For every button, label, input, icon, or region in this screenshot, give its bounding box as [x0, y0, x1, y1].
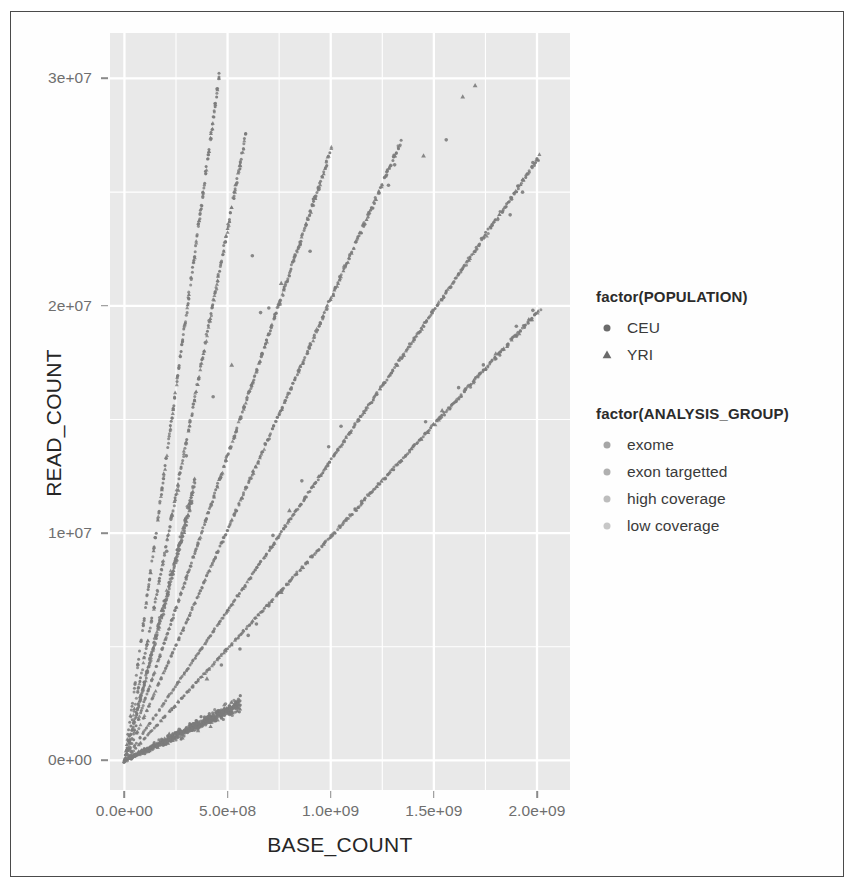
x-tick-label-2: 1.0e+09	[302, 802, 359, 820]
x-tick-mark-0	[124, 791, 126, 798]
legend-title: factor(POPULATION)	[596, 288, 748, 305]
x-tick-label-1: 5.0e+08	[199, 802, 256, 820]
y-tick-label-0: 0e+00	[18, 751, 92, 769]
legend-population: factor(POPULATION)CEUYRI	[596, 288, 748, 368]
legend-item-label: YRI	[627, 346, 653, 364]
plot-panel	[110, 33, 570, 790]
legend-title: factor(ANALYSIS_GROUP)	[596, 405, 789, 422]
x-tick-label-3: 1.5e+09	[405, 802, 462, 820]
legend-item-exome[interactable]: exome	[596, 431, 789, 458]
legend-item-ceu[interactable]: CEU	[596, 314, 748, 341]
legend-item-label: CEU	[627, 319, 660, 337]
x-tick-mark-3	[433, 791, 435, 798]
legend-item-label: exome	[627, 436, 674, 454]
legend-item-low-coverage[interactable]: low coverage	[596, 512, 789, 539]
x-axis-title: BASE_COUNT	[110, 833, 570, 857]
x-tick-mark-1	[227, 791, 229, 798]
y-axis-title: READ_COUNT	[42, 223, 66, 623]
x-tick-label-4: 2.0e+09	[508, 802, 565, 820]
x-tick-mark-2	[330, 791, 332, 798]
circle-marker-icon	[596, 461, 618, 483]
x-tick-mark-4	[536, 791, 538, 798]
legend-item-label: low coverage	[627, 517, 720, 535]
circle-marker-icon	[596, 515, 618, 537]
y-tick-mark-0	[101, 760, 108, 762]
y-tick-label-3: 3e+07	[18, 69, 92, 87]
scatter-plot-figure: 0e+001e+072e+073e+07 0.0e+005.0e+081.0e+…	[0, 0, 860, 895]
circle-marker-icon	[596, 434, 618, 456]
y-tick-mark-1	[101, 532, 108, 534]
x-tick-label-0: 0.0e+00	[96, 802, 153, 820]
legend-item-high-coverage[interactable]: high coverage	[596, 485, 789, 512]
triangle-marker-icon	[596, 344, 618, 366]
legend-item-label: exon targetted	[627, 463, 728, 481]
legend-item-exon-targetted[interactable]: exon targetted	[596, 458, 789, 485]
data-points-layer[interactable]	[110, 33, 570, 790]
y-tick-mark-2	[101, 305, 108, 307]
legend-item-yri[interactable]: YRI	[596, 341, 748, 368]
legend-analysis-group: factor(ANALYSIS_GROUP)exomeexon targette…	[596, 405, 789, 539]
circle-marker-icon	[596, 317, 618, 339]
legend-item-label: high coverage	[627, 490, 726, 508]
y-tick-mark-3	[101, 78, 108, 80]
circle-marker-icon	[596, 488, 618, 510]
